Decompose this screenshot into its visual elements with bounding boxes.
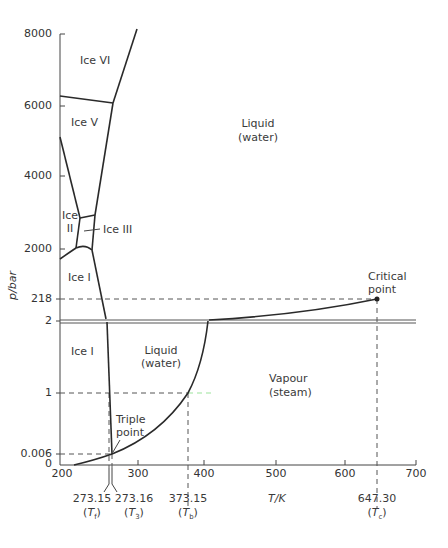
axis-break-double-line — [60, 320, 416, 323]
region-ice-i-upper: Ice I — [68, 271, 91, 284]
ice-ii-ice-v-boundary — [60, 137, 80, 218]
y-tick-2: 2 — [0, 315, 52, 327]
y-tick-2000: 2000 — [0, 243, 52, 255]
region-ice-i-lower: Ice I — [71, 345, 94, 358]
ice-vi-liquid-boundary — [113, 29, 137, 103]
region-vapour-line1: Vapour — [269, 372, 308, 385]
region-ice-ii-line1: Ice — [60, 209, 80, 222]
tf-symbol: (Tf) — [72, 506, 112, 524]
critical-point-label-line2: point — [368, 283, 396, 296]
region-liquid-lower-line2: (water) — [131, 357, 191, 370]
ice-iii-leader — [84, 229, 100, 231]
temperature-leaders — [104, 468, 117, 492]
ice-i-ice-iii-boundary — [76, 246, 92, 250]
region-ice-v: Ice V — [71, 116, 98, 129]
t3-sub: 3 — [135, 513, 139, 521]
tc-symbol: (Tc) — [357, 506, 397, 524]
tf-sub: f — [94, 513, 96, 521]
x-tick-300: 300 — [118, 468, 158, 480]
t3-symbol: (T3) — [114, 506, 154, 524]
y-tick-4000: 4000 — [0, 170, 52, 182]
y-tick-8000: 8000 — [0, 28, 52, 40]
region-liquid-upper-line2: (water) — [228, 131, 288, 144]
critical-point-label-line1: Critical — [368, 270, 406, 283]
ice-iii-ice-v-boundary — [80, 215, 95, 218]
tb-value: 373.15 — [168, 492, 208, 505]
t3-value: 273.16 — [114, 492, 154, 505]
vaporisation-curve-upper — [209, 299, 377, 320]
region-vapour-line2: (steam) — [269, 386, 312, 399]
region-ice-ii-line2: II — [60, 222, 80, 235]
x-tick-600: 600 — [325, 468, 365, 480]
tf-value: 273.15 — [72, 492, 112, 505]
region-ice-iii: Ice III — [103, 223, 132, 236]
critical-point-marker — [375, 297, 380, 302]
sublimation-curve — [74, 454, 112, 465]
region-liquid-upper-line1: Liquid — [228, 117, 288, 130]
y-tick-6000: 6000 — [0, 100, 52, 112]
tb-sub: b — [189, 513, 193, 521]
tc-sub: c — [378, 513, 382, 521]
phase-boundaries — [60, 29, 377, 465]
y-tick-1: 1 — [0, 387, 52, 399]
triple-point-label-line2: point — [116, 426, 144, 439]
region-liquid-lower-line1: Liquid — [131, 344, 191, 357]
ice-i-ice-ii-boundary — [60, 248, 76, 259]
y-axis-label: p/bar — [6, 271, 19, 300]
ice-i-liquid-boundary — [92, 250, 106, 319]
x-tick-400: 400 — [184, 468, 224, 480]
tc-value: 647.30 — [357, 492, 397, 505]
melting-curve-lower — [107, 322, 112, 454]
x-tick-700: 700 — [396, 468, 436, 480]
ice-v-ice-vi-boundary — [60, 96, 113, 103]
region-ice-vi: Ice VI — [80, 54, 110, 67]
x-tick-200: 200 — [42, 468, 82, 480]
x-tick-500: 500 — [256, 468, 296, 480]
x-axis-label: T/K — [268, 492, 286, 505]
ice-iii-liquid-boundary — [92, 215, 95, 250]
tb-symbol: (Tb) — [168, 506, 208, 524]
triple-point-label-line1: Triple — [116, 413, 146, 426]
triple-point-leader — [113, 440, 120, 452]
